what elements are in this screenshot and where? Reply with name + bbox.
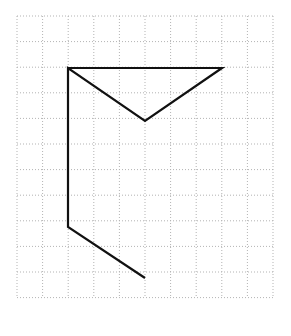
figure-canvas — [0, 0, 291, 336]
canvas-background — [0, 0, 291, 336]
grid-figure-svg — [0, 0, 291, 336]
